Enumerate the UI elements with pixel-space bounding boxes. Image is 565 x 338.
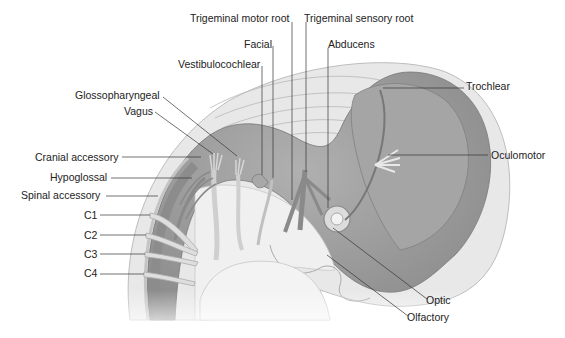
label-c4: C4 [84,267,97,279]
label-oculomotor: Oculomotor [491,149,545,161]
label-vagus: Vagus [124,105,153,117]
label-vestibulocochlear: Vestibulocochlear [178,58,260,70]
label-facial: Facial [244,38,272,50]
label-abducens: Abducens [328,38,375,50]
label-trigeminal-sensory-root: Trigeminal sensory root [304,12,413,24]
embryo-cranial-nerves-diagram: Trigeminal motor root Trigeminal sensory… [0,0,565,338]
label-spinal-accessory: Spinal accessory [21,189,100,201]
label-c3: C3 [84,248,97,260]
label-hypoglossal: Hypoglossal [50,171,107,183]
label-optic: Optic [426,294,451,306]
label-trochlear: Trochlear [466,80,510,92]
label-c2: C2 [84,229,97,241]
label-glossopharyngeal: Glossopharyngeal [75,89,160,101]
label-trigeminal-motor-root: Trigeminal motor root [190,12,289,24]
label-cranial-accessory: Cranial accessory [35,151,118,163]
anatomy-illustration [0,0,565,338]
optic-vesicle-inner [331,213,343,225]
label-c1: C1 [84,209,97,221]
label-olfactory: Olfactory [407,311,449,323]
